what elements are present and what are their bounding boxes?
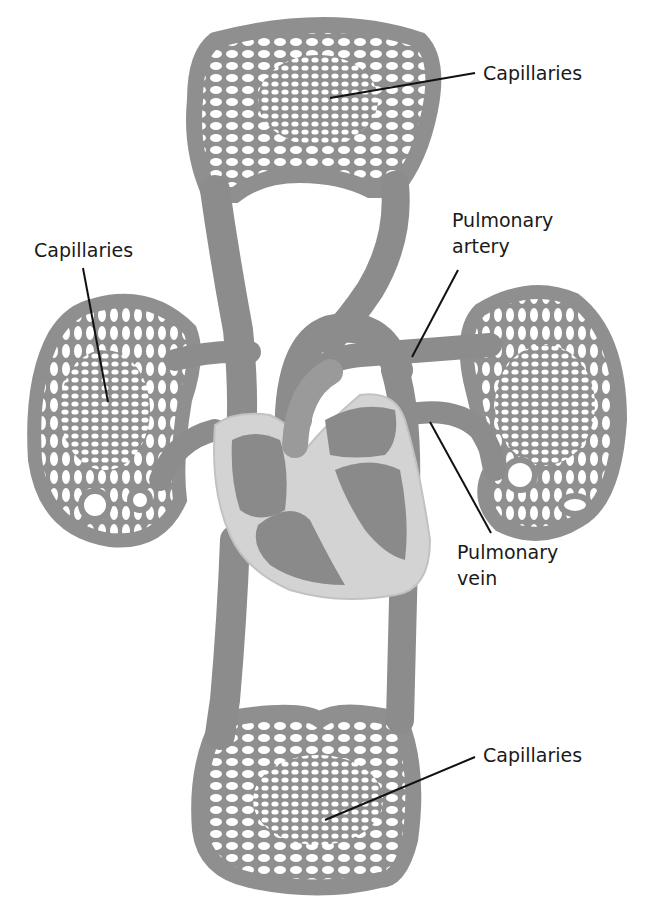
left-lung-capillary-bed bbox=[34, 301, 194, 541]
label-pulmonary-vein-line1: Pulmonary bbox=[457, 540, 558, 564]
label-pulmonary-artery-line1: Pulmonary bbox=[452, 208, 553, 232]
label-capillaries-top: Capillaries bbox=[483, 61, 582, 85]
label-capillaries-bottom: Capillaries bbox=[483, 743, 582, 767]
label-capillaries-left: Capillaries bbox=[34, 238, 133, 262]
upper-capillary-bed bbox=[194, 25, 433, 195]
diagram-artwork bbox=[0, 0, 650, 908]
right-lung-capillary-bed bbox=[467, 292, 620, 534]
label-pulmonary-artery-line2: artery bbox=[452, 234, 510, 258]
circulatory-diagram: Capillaries Capillaries Pulmonary artery… bbox=[0, 0, 650, 908]
right-atrium bbox=[232, 434, 287, 518]
left-atrium bbox=[325, 407, 396, 458]
label-pulmonary-vein-line2: vein bbox=[457, 566, 497, 590]
